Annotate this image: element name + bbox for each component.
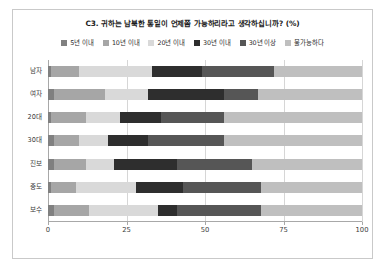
bar-segment[interactable] (224, 112, 362, 123)
bar-segment[interactable] (76, 182, 136, 193)
legend-item[interactable]: 20년 이내 (148, 38, 185, 47)
x-axis-tick-marks (48, 222, 362, 225)
x-axis-tick-mark (48, 222, 49, 225)
bar-segment[interactable] (148, 89, 223, 100)
bar-segment[interactable] (54, 135, 79, 146)
x-axis-tick-mark (284, 222, 285, 225)
legend-label: 10년 이내 (112, 38, 140, 47)
bar-segment[interactable] (86, 112, 121, 123)
bar-segment[interactable] (161, 112, 224, 123)
bar-row[interactable] (48, 66, 362, 77)
bar-segment[interactable] (177, 159, 252, 170)
chart-figure: C3. 귀하는 남북한 통일이 언제쯤 가능하리라고 생각하십니까? (%) 5… (12, 9, 373, 259)
bar-segment[interactable] (114, 159, 177, 170)
bar-segment[interactable] (79, 66, 151, 77)
legend-label: 불가능하다 (294, 38, 324, 47)
legend-label: 30년 이내 (203, 38, 231, 47)
x-axis-labels: 0255075100 (48, 226, 362, 238)
x-axis-tick-label: 25 (122, 226, 131, 234)
x-axis-tick-mark (127, 222, 128, 225)
legend-swatch-icon (194, 40, 200, 46)
bar-segment[interactable] (136, 182, 183, 193)
bar-segment[interactable] (274, 66, 362, 77)
x-axis-tick-label: 100 (356, 226, 369, 234)
y-axis-label: 보수 (13, 205, 46, 216)
bar-segment[interactable] (224, 89, 259, 100)
bar-row[interactable] (48, 205, 362, 216)
bar-segment[interactable] (54, 205, 89, 216)
bar-segment[interactable] (108, 135, 149, 146)
y-axis-label: 20대 (13, 112, 46, 123)
bar-segment[interactable] (202, 66, 274, 77)
x-axis-tick-mark (205, 222, 206, 225)
legend-swatch-icon (285, 40, 291, 46)
plot-area (48, 60, 362, 222)
gridline (362, 60, 363, 222)
bar-row[interactable] (48, 89, 362, 100)
bar-segment[interactable] (258, 89, 362, 100)
bar-segment[interactable] (51, 182, 76, 193)
legend-swatch-icon (240, 40, 246, 46)
x-axis-tick-label: 50 (201, 226, 210, 234)
bar-segment[interactable] (252, 159, 362, 170)
legend-swatch-icon (103, 40, 109, 46)
legend-swatch-icon (61, 40, 67, 46)
bar-segment[interactable] (54, 159, 85, 170)
bar-segment[interactable] (89, 205, 158, 216)
x-axis-tick-mark (362, 222, 363, 225)
chart-legend: 5년 이내10년 이내20년 이내30년 이내30년 이상불가능하다 (13, 38, 372, 47)
legend-item[interactable]: 10년 이내 (103, 38, 140, 47)
legend-swatch-icon (148, 40, 154, 46)
bar-segment[interactable] (158, 205, 177, 216)
y-axis-label: 남자 (13, 66, 46, 77)
bar-segment[interactable] (152, 66, 202, 77)
bar-row[interactable] (48, 112, 362, 123)
y-axis-label: 중도 (13, 182, 46, 193)
plot-wrapper: 남자여자20대30대진보중도보수 0255075100 (13, 56, 372, 256)
bar-segment[interactable] (79, 135, 107, 146)
bar-segment[interactable] (183, 182, 262, 193)
y-axis-label: 여자 (13, 89, 46, 100)
y-axis-labels: 남자여자20대30대진보중도보수 (13, 60, 46, 222)
bar-segment[interactable] (177, 205, 262, 216)
x-axis-tick-label: 75 (279, 226, 288, 234)
bar-segment[interactable] (105, 89, 149, 100)
bar-segment[interactable] (51, 112, 86, 123)
legend-item[interactable]: 불가능하다 (285, 38, 324, 47)
bar-segment[interactable] (224, 135, 362, 146)
legend-label: 5년 이내 (70, 38, 94, 47)
chart-title: C3. 귀하는 남북한 통일이 언제쯤 가능하리라고 생각하십니까? (%) (13, 17, 372, 28)
bar-segment[interactable] (148, 135, 223, 146)
legend-item[interactable]: 5년 이내 (61, 38, 94, 47)
bar-row[interactable] (48, 135, 362, 146)
legend-label: 30년 이상 (249, 38, 277, 47)
legend-item[interactable]: 30년 이상 (240, 38, 277, 47)
bar-segment[interactable] (51, 66, 79, 77)
bar-segment[interactable] (261, 182, 361, 193)
bar-segment[interactable] (261, 205, 361, 216)
legend-label: 20년 이내 (157, 38, 185, 47)
bar-segment[interactable] (120, 112, 161, 123)
y-axis-label: 30대 (13, 135, 46, 146)
bar-row[interactable] (48, 159, 362, 170)
x-axis-tick-label: 0 (46, 226, 50, 234)
bar-row[interactable] (48, 182, 362, 193)
bar-segment[interactable] (54, 89, 104, 100)
y-axis-label: 진보 (13, 159, 46, 170)
bar-segment[interactable] (86, 159, 114, 170)
legend-item[interactable]: 30년 이내 (194, 38, 231, 47)
bars-container (48, 60, 362, 222)
